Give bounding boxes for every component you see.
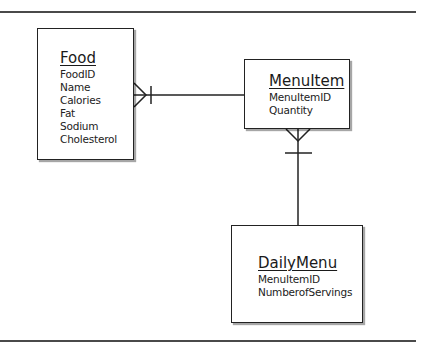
attribute: Quantity [269, 104, 344, 117]
attribute: Sodium [60, 120, 117, 133]
food-menuitem-relationship [134, 83, 244, 107]
entity-menuitem[interactable]: MenuItem MenuItemID Quantity [244, 59, 350, 129]
attribute: MenuItemID [258, 273, 352, 286]
entity-food[interactable]: Food FoodID Name Calories Fat Sodium Cho… [37, 28, 134, 160]
entity-title: Food [60, 49, 117, 67]
entity-dailymenu[interactable]: DailyMenu MenuItemID NumberofServings [231, 225, 363, 323]
attribute: MenuItemID [269, 91, 344, 104]
attribute: FoodID [60, 68, 117, 81]
attribute: NumberofServings [258, 286, 352, 299]
entity-title: MenuItem [269, 72, 344, 90]
attribute: Fat [60, 107, 117, 120]
attribute: Calories [60, 94, 117, 107]
attribute: Cholesterol [60, 133, 117, 146]
attribute: Name [60, 81, 117, 94]
entity-title: DailyMenu [258, 254, 352, 272]
menuitem-dailymenu-relationship [285, 129, 312, 225]
